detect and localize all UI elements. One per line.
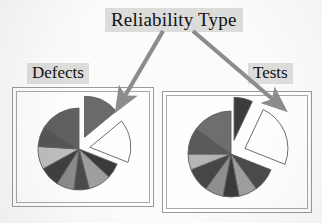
chart-panel-defects (12, 87, 154, 207)
panel-label-tests-text: Tests (253, 63, 288, 83)
chart-panel-tests (162, 91, 312, 213)
reliability-type-title-box: Reliability Type (105, 8, 243, 32)
chart-panel-defects-inner-border (16, 91, 150, 203)
pie-slice (245, 110, 288, 165)
panel-label-defects-text: Defects (32, 63, 84, 83)
pie-chart-defects (17, 92, 149, 202)
pie-slice (234, 97, 252, 140)
panel-label-tests: Tests (248, 63, 293, 84)
chart-panel-tests-inner-border (166, 95, 308, 209)
panel-label-defects: Defects (27, 63, 89, 84)
pie-chart-defects-svg (17, 92, 153, 206)
page-title: Reliability Type (111, 9, 237, 30)
pie-chart-tests-svg (167, 96, 311, 212)
pie-chart-tests (167, 96, 307, 208)
